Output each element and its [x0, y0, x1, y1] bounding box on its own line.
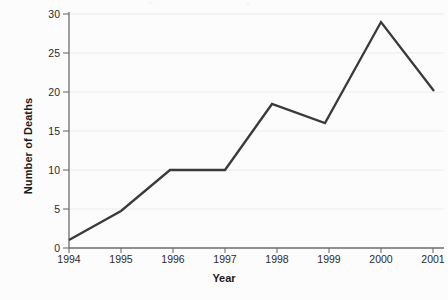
x-axis [69, 248, 444, 253]
plot-svg [0, 0, 448, 300]
line-chart-figure: Number of Deaths Year 0 5 10 15 20 25 30… [0, 0, 448, 300]
gridlines [69, 14, 444, 209]
y-axis [63, 12, 69, 248]
